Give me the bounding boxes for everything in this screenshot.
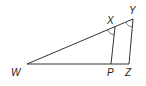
segment-xp — [111, 27, 115, 64]
angle-arc-y — [126, 22, 133, 27]
triangle-diagram: W X Y P Z — [0, 0, 146, 86]
angle-arc-x — [108, 30, 115, 35]
segment-wy — [27, 19, 133, 64]
label-y: Y — [129, 5, 137, 16]
label-w: W — [11, 67, 22, 78]
label-z: Z — [124, 67, 132, 78]
segment-yz — [129, 19, 133, 64]
label-x: X — [106, 15, 114, 26]
label-p: P — [107, 67, 114, 78]
